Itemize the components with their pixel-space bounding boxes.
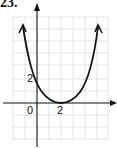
parabola-graph: 2 0 2 [0,0,117,148]
y-tick-label-2: 2 [27,72,33,84]
y-axis-arrow-icon [34,3,40,11]
x-axis-arrow-icon [110,100,117,106]
x-tick-label-2: 2 [57,104,63,116]
origin-label: 0 [27,104,33,116]
